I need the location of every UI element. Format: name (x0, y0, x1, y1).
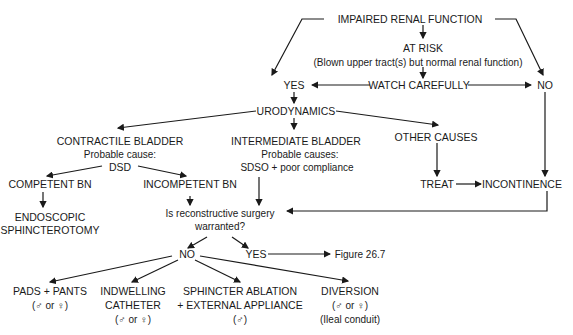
node-sphincterotomy: SPHINCTEROTOMY (1, 224, 100, 237)
node-external-appliance: + EXTERNAL APPLIANCE (177, 299, 302, 312)
flowchart: IMPAIRED RENAL FUNCTION AT RISK (Blown u… (0, 0, 573, 335)
node-pads-pants: PADS + PANTS (13, 285, 87, 298)
node-indwelling: INDWELLING (100, 285, 165, 298)
node-impaired-renal-function: IMPAIRED RENAL FUNCTION (338, 13, 483, 26)
node-intermediate-causes: Probable causes: (261, 148, 338, 161)
node-contractile-cause: Probable cause: (84, 148, 156, 161)
node-dsd: DSD (109, 161, 131, 174)
node-no-top: NO (537, 79, 553, 92)
node-indwelling-sex: (♂ or ♀) (115, 313, 151, 326)
node-figure-ref: Figure 26.7 (335, 248, 386, 261)
node-incontinence: INCONTINENCE (482, 178, 562, 191)
node-other-causes: OTHER CAUSES (395, 131, 478, 144)
node-catheter: CATHETER (105, 299, 161, 312)
node-ileal-conduit: (Ileal conduit) (320, 313, 380, 326)
node-no-mid: NO (179, 248, 195, 261)
node-incompetent-bn: INCOMPETENT BN (143, 178, 237, 191)
node-at-risk-detail: (Blown upper tract(s) but normal renal f… (314, 56, 523, 69)
node-question: Is reconstructive surgery (166, 207, 275, 220)
node-at-risk: AT RISK (403, 42, 443, 55)
node-contractile-bladder: CONTRACTILE BLADDER (57, 135, 184, 148)
node-pads-sex: (♂ or ♀) (32, 299, 68, 312)
node-sphincter-sex: (♂) (233, 313, 247, 326)
node-urodynamics: URODYNAMICS (257, 105, 336, 118)
node-watch-carefully: WATCH CAREFULLY (368, 79, 469, 92)
node-competent-bn: COMPETENT BN (8, 178, 91, 191)
node-intermediate-bladder: INTERMEDIATE BLADDER (231, 135, 361, 148)
node-diversion-sex: (♂ or ♀) (332, 299, 368, 312)
node-intermediate-detail: SDSO + poor compliance (240, 161, 353, 174)
node-yes-mid: YES (245, 248, 266, 261)
node-endoscopic: ENDOSCOPIC (15, 211, 86, 224)
node-sphincter-ablation: SPHINCTER ABLATION (183, 285, 297, 298)
node-diversion: DIVERSION (321, 285, 379, 298)
node-yes-top: YES (283, 79, 304, 92)
node-question-warranted: warranted? (195, 220, 245, 233)
node-treat: TREAT (420, 178, 454, 191)
